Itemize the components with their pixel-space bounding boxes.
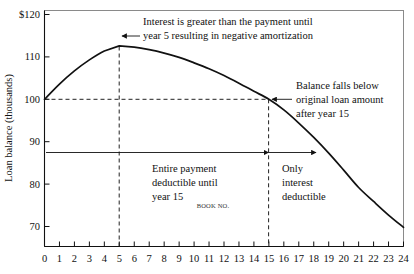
x-tick-label: 12 [219,253,230,264]
x-tick-label: 18 [309,253,320,264]
annotation-entire-payment-deductible: Entire payment deductible until year 15 [152,163,218,202]
x-tick-label: 6 [132,253,137,264]
annotation-only-interest-deductible: Only interest deductible [282,163,326,202]
y-tickmarks [45,15,50,227]
x-tickmarks [45,242,404,247]
x-tick-label: 7 [147,253,152,264]
x-tick-label: 0 [42,253,47,264]
chart-figure: $120 110 100 90 80 70 Loan balance (thou… [0,0,414,274]
x-tick-label: 23 [383,253,394,264]
annotation-line: Only [282,163,304,174]
annotation-line: deductible [282,191,326,202]
annotation-negative-amortization: Interest is greater than the payment unt… [143,16,314,41]
y-tick-labels: $120 110 100 90 80 70 [19,9,40,232]
x-tick-label: 3 [87,253,92,264]
x-tick-label: 17 [294,253,305,264]
book-no-stamp: BOOK NO. [197,202,230,209]
x-tick-label: 9 [177,253,182,264]
y-tick-label: 100 [24,94,40,105]
annotation-line: year 5 resulting in negative amortizatio… [143,30,314,41]
plot-frame [45,11,404,247]
loan-balance-curve [45,46,404,227]
x-tick-label: 2 [72,253,77,264]
annotation-line: Entire payment [152,163,217,174]
y-tick-label: $120 [19,9,40,20]
x-tick-label: 8 [162,253,167,264]
y-tick-label: 80 [30,179,41,190]
annotation-balance-falls-below: Balance falls below original loan amount… [296,80,384,119]
x-tick-label: 11 [204,253,214,264]
annotation-line: interest [282,177,313,188]
annotation-line: Interest is greater than the payment unt… [143,16,313,27]
x-tick-label: 4 [102,253,108,264]
x-tick-label: 15 [264,253,275,264]
x-tick-label: 21 [353,253,364,264]
y-tick-label: 110 [25,51,40,62]
x-tick-label: 14 [249,253,260,264]
annotation-line: original loan amount [296,94,384,105]
y-tick-label: 90 [30,136,41,147]
loan-balance-chart: $120 110 100 90 80 70 Loan balance (thou… [0,0,414,274]
x-tick-label: 5 [117,253,122,264]
y-axis-title: Loan balance (thousands) [3,74,15,182]
x-tick-label: 1 [57,253,62,264]
x-tick-label: 19 [323,253,334,264]
x-tick-label: 20 [338,253,349,264]
x-tick-label: 16 [279,253,290,264]
annotation-line: year 15 [152,191,183,202]
x-tick-label: 22 [368,253,379,264]
x-tick-labels: 0123456789101112131415161718192021222324 [42,253,410,264]
x-tick-label: 10 [189,253,200,264]
x-tick-label: 24 [398,253,409,264]
annotation-line: after year 15 [296,108,349,119]
y-tick-label: 70 [30,221,41,232]
x-tick-label: 13 [234,253,245,264]
annotation-line: Balance falls below [296,80,379,91]
annotation-line: deductible until [152,177,218,188]
